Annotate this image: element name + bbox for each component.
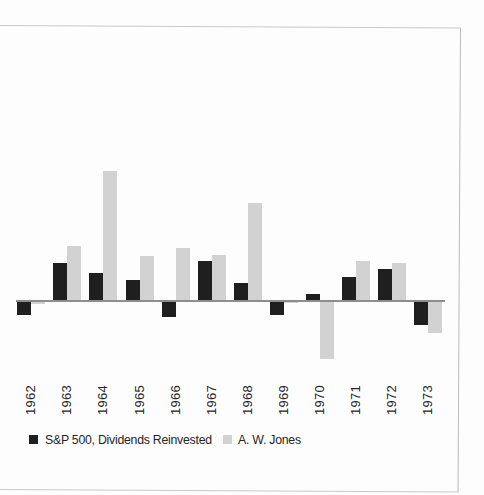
- jones-legend-swatch: [223, 435, 232, 444]
- sp500-legend-label: S&P 500, Dividends Reinvested: [45, 434, 212, 447]
- legend: S&P 500, Dividends Reinvested A. W. Jone…: [0, 0, 484, 495]
- jones-legend-label: A. W. Jones: [238, 434, 301, 447]
- sp500-legend-swatch: [29, 435, 38, 444]
